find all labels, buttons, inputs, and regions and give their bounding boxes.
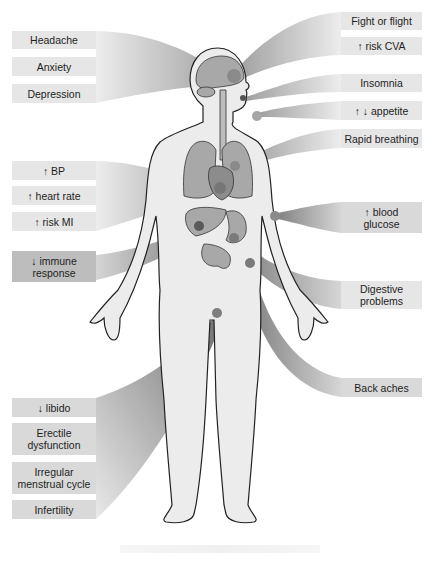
hotspot-pancreas bbox=[270, 211, 280, 221]
label-infertility: Infertility bbox=[12, 500, 96, 519]
label-libido: ↓ libido bbox=[12, 398, 96, 417]
hotspot-liver bbox=[194, 221, 204, 231]
hotspot-brain bbox=[227, 69, 241, 83]
hotspot-mouth bbox=[252, 111, 262, 121]
figure-caption bbox=[120, 545, 320, 553]
hotspot-back bbox=[245, 258, 255, 268]
label-fight-or-flight: Fight or flight bbox=[341, 12, 422, 30]
hotspot-eye bbox=[240, 95, 246, 101]
label-erectile-dysfunction: Erectile dysfunction bbox=[12, 423, 96, 455]
label-back-aches: Back aches bbox=[341, 378, 422, 397]
label-anxiety: Anxiety bbox=[12, 57, 96, 76]
hotspot-stomach bbox=[229, 233, 239, 243]
label-bp: ↑ BP bbox=[12, 161, 96, 180]
label-heart-rate: ↑ heart rate bbox=[12, 186, 96, 205]
label-headache: Headache bbox=[12, 31, 96, 49]
label-appetite: ↑ ↓ appetite bbox=[341, 101, 422, 120]
label-risk-mi: ↑ risk MI bbox=[12, 212, 96, 231]
stress-effects-diagram: Headache Anxiety Depression ↑ BP ↑ heart… bbox=[0, 0, 436, 564]
label-digestive-problems: Digestive problems bbox=[341, 281, 422, 309]
label-rapid-breathing: Rapid breathing bbox=[341, 129, 422, 148]
label-irregular-menstrual-cycle: Irregular menstrual cycle bbox=[12, 462, 96, 494]
hotspot-heart bbox=[214, 182, 226, 194]
label-immune-response: ↓ immune response bbox=[12, 251, 96, 282]
hotspot-pelvis bbox=[212, 308, 222, 318]
label-blood-glucose: ↑ blood glucose bbox=[341, 202, 422, 233]
label-risk-cva: ↑ risk CVA bbox=[341, 37, 422, 55]
hotspot-lung bbox=[230, 161, 240, 171]
label-insomnia: Insomnia bbox=[341, 74, 422, 92]
cerebellum bbox=[197, 87, 215, 97]
label-depression: Depression bbox=[12, 84, 96, 103]
